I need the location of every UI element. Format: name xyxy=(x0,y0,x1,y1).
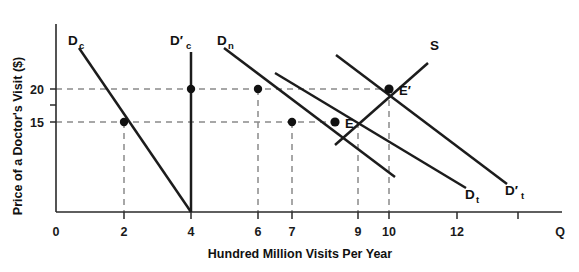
curve-label-dprimec-main: D′ xyxy=(170,33,183,48)
label-point-e: E xyxy=(345,116,354,131)
y-tick-label-20: 20 xyxy=(30,83,44,97)
x-tick-label-12: 12 xyxy=(450,225,464,239)
point-dn-20 xyxy=(254,85,262,93)
label-point-e-prime: E′ xyxy=(399,83,411,98)
x-tick-label-2: 2 xyxy=(121,225,128,239)
curve-label-dprimet-sub: t xyxy=(521,190,525,201)
curve-label-dn-sub: n xyxy=(228,40,234,51)
chart-container: 20 15 0 2 4 6 7 9 10 12 Q Price of a Doc… xyxy=(0,0,579,272)
point-equilibrium-e-prime xyxy=(384,84,393,93)
y-tick-label-15: 15 xyxy=(30,116,44,130)
curve-label-dn-main: D xyxy=(217,33,227,48)
curve-label-dprimec: D′ c xyxy=(170,33,191,51)
point-dprimec-20 xyxy=(187,85,195,93)
curve-dn xyxy=(224,48,395,177)
y-axis-title: Price of a Doctor's Visit ($) xyxy=(11,57,25,215)
curve-label-dt-main: D xyxy=(465,187,475,202)
curve-dc xyxy=(79,48,191,212)
curve-label-dc-main: D xyxy=(68,33,78,48)
curve-label-dprimet-main: D′ xyxy=(505,183,518,198)
guide-lines xyxy=(56,89,389,212)
curve-label-dt: D t xyxy=(465,187,480,205)
curve-s xyxy=(335,63,428,145)
curve-label-dprimet: D′ t xyxy=(505,183,525,201)
demand-supply-curves xyxy=(79,48,507,212)
curve-dprimet xyxy=(336,55,507,184)
point-dc-15 xyxy=(120,118,128,126)
x-axis-symbol: Q xyxy=(555,225,565,239)
x-tick-label-0: 0 xyxy=(53,225,60,239)
x-tick-label-4: 4 xyxy=(188,225,195,239)
curve-label-dc-sub: c xyxy=(79,40,84,51)
x-tick-label-10: 10 xyxy=(382,225,396,239)
curve-label-s: S xyxy=(430,38,439,53)
curve-label-dt-sub: t xyxy=(476,194,480,205)
curve-label-dprimec-sub: c xyxy=(186,40,191,51)
x-tick-label-6: 6 xyxy=(255,225,262,239)
x-tick-label-7: 7 xyxy=(289,225,296,239)
x-tick-label-9: 9 xyxy=(355,225,362,239)
supply-demand-chart: 20 15 0 2 4 6 7 9 10 12 Q Price of a Doc… xyxy=(0,0,579,272)
point-dn-15 xyxy=(288,118,296,126)
curve-label-dc: D c xyxy=(68,33,84,51)
point-equilibrium-e xyxy=(330,117,339,126)
x-axis-title: Hundred Million Visits Per Year xyxy=(208,247,392,261)
